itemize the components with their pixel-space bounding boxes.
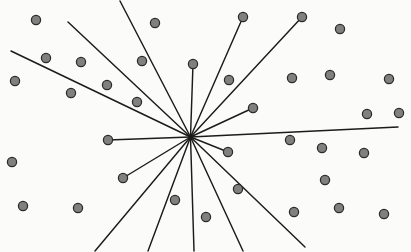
data-point-30	[73, 203, 82, 212]
spoke-sse-edge	[191, 137, 244, 251]
data-point-10	[102, 80, 111, 89]
data-point-13	[325, 70, 334, 79]
data-point-1	[150, 18, 159, 27]
data-point-12	[287, 73, 296, 82]
data-point-23	[359, 148, 368, 157]
spoke-nw-long	[68, 22, 191, 137]
data-point-17	[248, 103, 257, 112]
data-point-32	[201, 212, 210, 221]
figure-svg	[0, 0, 411, 252]
data-point-2	[238, 12, 247, 21]
data-point-3	[297, 12, 306, 21]
data-point-6	[76, 57, 85, 66]
data-point-22	[317, 143, 326, 152]
data-point-20	[103, 135, 112, 144]
data-point-35	[379, 209, 388, 218]
scatter-dots-layer	[7, 12, 403, 221]
spoke-sw-edge	[95, 137, 191, 251]
figure-canvas	[0, 0, 411, 252]
data-point-27	[233, 184, 242, 193]
spoke-w-to-dot	[108, 137, 191, 140]
data-point-8	[10, 76, 19, 85]
data-point-21	[285, 135, 294, 144]
data-point-15	[132, 97, 141, 106]
data-point-26	[118, 173, 127, 182]
spoke-ne-to-dot-b	[191, 17, 303, 137]
data-point-18	[362, 109, 371, 118]
spoke-se-edge	[191, 137, 306, 247]
data-point-33	[289, 207, 298, 216]
data-point-11	[224, 75, 233, 84]
spoke-wsw-to-dot	[123, 137, 191, 178]
data-point-14	[384, 74, 393, 83]
data-point-34	[334, 203, 343, 212]
data-point-24	[223, 147, 232, 156]
spoke-ne-to-dot-a	[191, 17, 244, 137]
data-point-31	[170, 195, 179, 204]
spoke-ssw-edge	[148, 137, 191, 251]
spoke-nw-edge-left	[11, 51, 191, 137]
spoke-ene-to-dot	[191, 108, 254, 137]
data-point-28	[320, 175, 329, 184]
spoke-e-long	[191, 127, 399, 137]
spoke-n-vertical	[191, 64, 194, 137]
data-point-0	[31, 15, 40, 24]
data-point-4	[335, 24, 344, 33]
data-point-25	[7, 157, 16, 166]
spoke-s-vertical	[191, 137, 195, 251]
data-point-9	[66, 88, 75, 97]
data-point-29	[18, 201, 27, 210]
data-point-19	[394, 108, 403, 117]
data-point-5	[41, 53, 50, 62]
data-point-16	[188, 59, 197, 68]
data-point-7	[137, 56, 146, 65]
